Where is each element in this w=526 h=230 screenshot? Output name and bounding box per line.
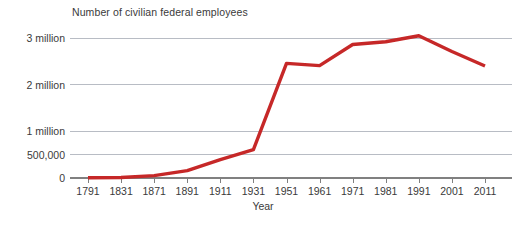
x-tick-label: 2001 xyxy=(440,185,463,197)
data-line xyxy=(88,36,485,178)
x-tick-label: 1951 xyxy=(275,185,298,197)
chart-figure: Number of civilian federal employees 050… xyxy=(0,0,526,230)
x-tick-label: 1931 xyxy=(242,185,265,197)
y-tick-label: 2 million xyxy=(26,79,65,91)
x-tick-label: 1911 xyxy=(209,185,232,197)
y-tick-label: 0 xyxy=(59,172,65,184)
gridlines-group xyxy=(70,38,512,178)
y-tick-label: 500,000 xyxy=(27,149,65,161)
x-tick-label: 1971 xyxy=(341,185,364,197)
x-tick-label: 1791 xyxy=(76,185,99,197)
x-tick-label: 1831 xyxy=(109,185,132,197)
data-series-group xyxy=(88,36,485,178)
x-tick-label: 1991 xyxy=(407,185,430,197)
y-tick-label: 3 million xyxy=(26,32,65,44)
x-tick-marks-group xyxy=(89,178,486,183)
x-tick-label: 1981 xyxy=(374,185,397,197)
y-tick-label: 1 million xyxy=(26,125,65,137)
x-tick-label: 1891 xyxy=(176,185,199,197)
x-tick-label: 1871 xyxy=(142,185,165,197)
x-axis-title: Year xyxy=(0,200,526,212)
x-tick-label: 2011 xyxy=(474,185,497,197)
x-tick-label: 1961 xyxy=(308,185,331,197)
